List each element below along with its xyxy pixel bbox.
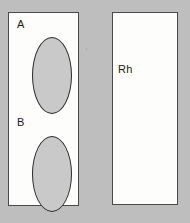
well-label-rh: Rh [118, 64, 132, 75]
rh-typing-panel [112, 12, 178, 205]
diagram-canvas: A B Rh [0, 0, 190, 223]
well-label-b: B [17, 117, 25, 128]
stray-speck-mark [86, 48, 87, 50]
well-b [32, 136, 72, 212]
well-a [32, 37, 72, 114]
well-label-a: A [17, 19, 25, 30]
abo-typing-panel [8, 12, 79, 206]
